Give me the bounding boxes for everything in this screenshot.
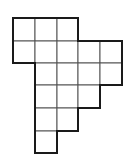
grid-cell <box>57 41 78 63</box>
grid-cell <box>35 131 57 153</box>
grid-cell <box>35 63 57 85</box>
grid-cell <box>57 108 78 131</box>
grid-cell <box>100 63 122 85</box>
grid-cell <box>13 41 35 63</box>
grid-cell <box>57 85 78 108</box>
grid-cell <box>57 63 78 85</box>
polyomino-grid-figure <box>0 0 134 165</box>
grid-cell <box>35 41 57 63</box>
grid-cell <box>100 41 122 63</box>
grid-cell <box>35 108 57 131</box>
grid-cell <box>35 18 57 41</box>
grid-cell <box>57 18 78 41</box>
grid-cell <box>35 85 57 108</box>
grid-cell <box>78 85 100 108</box>
grid-cell <box>78 41 100 63</box>
grid-cell <box>13 18 35 41</box>
grid-cell <box>78 63 100 85</box>
